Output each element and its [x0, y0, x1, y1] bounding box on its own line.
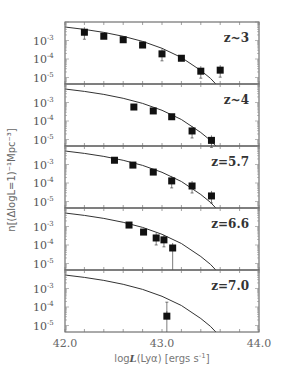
y-tick-label: 10-4	[33, 176, 54, 190]
y-tick-label: 10-4	[33, 114, 54, 128]
x-tick-43: 43.0	[142, 337, 182, 350]
redshift-label: z=7.0	[211, 279, 249, 293]
data-point	[189, 127, 196, 134]
data-point	[150, 169, 157, 176]
redshift-label: z=6.6	[211, 217, 249, 231]
data-point	[139, 42, 146, 49]
y-tick-label: 10-3	[33, 158, 54, 172]
redshift-label: z~4	[224, 93, 249, 107]
data-point	[150, 107, 157, 114]
data-point	[153, 234, 160, 241]
data-point	[163, 313, 170, 320]
y-tick-label: 10-4	[33, 300, 54, 314]
x-tick-44: 44.0	[239, 337, 279, 350]
panel-z-7.0: z=7.0	[65, 275, 249, 337]
panel-z-6.6: z=6.6	[65, 213, 249, 275]
panel-z-5.7: z=5.7	[65, 151, 249, 213]
panel-z-4: z~4	[65, 89, 249, 151]
data-point	[169, 244, 176, 251]
redshift-label: z~3	[224, 31, 249, 45]
data-point	[168, 113, 175, 120]
data-point	[168, 177, 175, 184]
data-point	[217, 67, 224, 74]
y-tick-label: 10-5	[33, 133, 54, 147]
y-tick-label: 10-3	[33, 220, 54, 234]
data-point	[81, 29, 88, 36]
panel-z-3: z~3	[65, 27, 249, 89]
data-point	[208, 192, 215, 199]
x-tick-42: 42.0	[45, 337, 85, 350]
model-curve	[65, 213, 220, 275]
data-point	[126, 222, 133, 229]
data-point	[159, 50, 166, 57]
data-point	[111, 157, 118, 164]
y-tick-label: 10-3	[33, 34, 54, 48]
y-tick-label: 10-5	[33, 71, 54, 85]
x-axis-label: logL(Lyα) [ergs s-1]	[65, 352, 259, 364]
model-curve	[65, 151, 220, 213]
data-point	[100, 33, 107, 40]
y-tick-label: 10-3	[33, 96, 54, 110]
data-point	[120, 36, 127, 43]
model-curve	[65, 27, 220, 89]
data-point	[178, 55, 185, 62]
model-curve	[65, 89, 220, 151]
y-tick-label: 10-4	[33, 52, 54, 66]
data-point	[130, 104, 137, 111]
y-tick-label: 10-3	[33, 282, 54, 296]
redshift-label: z=5.7	[211, 155, 249, 169]
data-point	[129, 162, 136, 169]
y-tick-label: 10-4	[33, 238, 54, 252]
y-tick-label: 10-5	[33, 195, 54, 209]
data-point	[140, 229, 147, 236]
y-tick-label: 10-5	[33, 257, 54, 271]
data-point	[189, 182, 196, 189]
y-axis-label: n[(ΔlogL=1)⁻¹Mpc⁻³]	[6, 90, 20, 270]
luminosity-function-plot: z~310-310-410-5z~410-310-410-5z=5.710-31…	[0, 0, 285, 387]
data-point	[160, 236, 167, 243]
y-tick-label: 10-5	[33, 319, 54, 333]
data-point	[197, 68, 204, 75]
data-point	[208, 137, 215, 144]
model-curve	[65, 275, 220, 337]
